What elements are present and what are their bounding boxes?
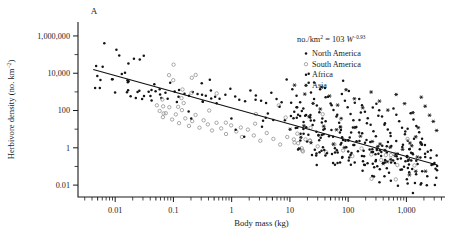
data-point — [284, 116, 287, 119]
data-point — [377, 115, 380, 118]
data-point — [410, 151, 413, 154]
data-point — [207, 109, 210, 112]
data-point — [296, 106, 299, 109]
data-point — [334, 147, 337, 150]
data-point — [95, 65, 98, 68]
data-point — [404, 160, 407, 163]
data-point — [392, 107, 395, 110]
data-point — [166, 98, 169, 101]
data-point — [384, 153, 387, 156]
data-point — [363, 164, 366, 167]
data-point — [180, 108, 183, 111]
data-point — [243, 135, 246, 138]
data-point — [99, 87, 102, 90]
x-tick-label: 10 — [286, 206, 294, 215]
data-point — [382, 162, 385, 165]
data-point — [290, 102, 293, 105]
data-point — [401, 148, 405, 151]
data-point — [272, 137, 275, 140]
data-point — [316, 164, 319, 167]
data-point — [386, 108, 390, 111]
data-point — [326, 152, 329, 155]
data-point — [424, 144, 427, 147]
data-point — [291, 88, 294, 91]
data-point — [270, 91, 273, 94]
data-point — [324, 96, 327, 99]
data-point — [407, 160, 410, 163]
data-point — [184, 117, 187, 120]
data-point — [380, 158, 383, 161]
data-point — [353, 161, 356, 164]
data-point — [290, 115, 293, 118]
data-point — [205, 95, 208, 98]
data-point — [150, 99, 153, 102]
data-point — [419, 183, 422, 186]
data-point — [307, 133, 310, 136]
y-axis-ticks — [73, 36, 78, 185]
data-point — [378, 181, 381, 184]
data-point — [149, 95, 152, 98]
data-point — [434, 184, 437, 187]
data-point — [361, 169, 364, 172]
data-point — [412, 153, 415, 156]
data-point — [239, 126, 242, 129]
data-point — [198, 126, 201, 129]
data-point — [361, 132, 364, 135]
data-point — [434, 168, 437, 171]
data-point — [249, 89, 252, 92]
data-point — [335, 128, 339, 131]
data-point — [275, 98, 278, 101]
data-point — [314, 148, 317, 151]
data-point — [310, 91, 313, 94]
data-point — [267, 112, 270, 115]
data-point — [219, 127, 222, 130]
y-tick-label: 10,000 — [47, 69, 70, 78]
data-point — [376, 165, 379, 168]
series-dense-cluster — [94, 42, 439, 194]
data-point — [129, 95, 132, 98]
data-point — [387, 141, 390, 144]
data-point — [322, 146, 325, 149]
data-point — [147, 90, 150, 93]
data-point — [339, 161, 342, 164]
data-point — [387, 128, 390, 131]
data-point — [295, 95, 298, 98]
data-point — [278, 106, 281, 109]
data-point — [307, 72, 310, 75]
data-point — [313, 98, 316, 101]
data-point — [408, 163, 411, 166]
data-point — [339, 126, 342, 129]
data-point — [294, 127, 297, 130]
data-point — [139, 58, 142, 61]
data-point — [428, 114, 432, 117]
data-point — [254, 98, 256, 101]
data-point — [299, 115, 302, 118]
legend-label-africa: Africa — [312, 70, 333, 79]
data-point — [261, 125, 264, 128]
data-point — [379, 168, 382, 171]
data-point — [118, 54, 121, 57]
data-point — [380, 155, 383, 158]
data-point — [224, 132, 227, 135]
data-point — [310, 119, 313, 122]
data-point — [396, 158, 399, 161]
series-asia — [293, 83, 439, 163]
data-point — [375, 159, 378, 162]
data-point — [323, 149, 326, 152]
data-point — [299, 132, 302, 135]
data-point — [412, 192, 415, 195]
data-point — [363, 155, 366, 158]
data-point — [133, 57, 136, 60]
data-point — [172, 78, 175, 81]
data-point — [411, 168, 414, 171]
data-point — [374, 153, 377, 156]
data-point — [381, 144, 384, 147]
data-point — [347, 150, 350, 153]
data-point — [349, 113, 352, 116]
data-point — [415, 155, 419, 158]
data-point — [316, 104, 319, 107]
data-point — [350, 164, 353, 167]
data-point — [103, 42, 106, 45]
panel-label: A — [91, 6, 98, 16]
data-point — [350, 131, 353, 134]
